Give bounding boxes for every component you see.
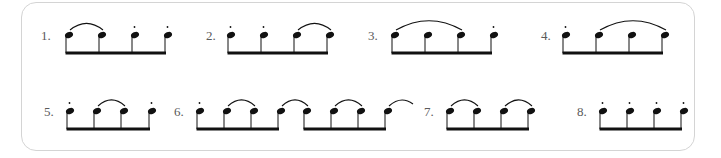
staccato-dot (199, 102, 201, 104)
beam (228, 52, 329, 55)
notehead (65, 107, 75, 116)
notehead (97, 31, 107, 40)
exercise-number: 8. (577, 104, 587, 119)
notehead (383, 107, 393, 116)
notehead (259, 31, 269, 40)
notehead (276, 107, 286, 116)
notehead (625, 107, 635, 116)
notehead (356, 107, 366, 116)
beam (447, 128, 530, 131)
notehead (679, 107, 689, 116)
exercise-number: 5. (44, 104, 54, 119)
slur (70, 23, 103, 30)
beam (67, 128, 151, 131)
staccato-dot (683, 102, 685, 104)
notehead (163, 31, 173, 40)
slur (335, 100, 362, 106)
notehead (526, 107, 536, 116)
slur (98, 100, 125, 106)
staccato-dot (167, 26, 169, 28)
notehead (499, 107, 509, 116)
beam (600, 128, 683, 131)
notehead (195, 107, 205, 116)
notehead (226, 31, 236, 40)
staccato-dot (134, 26, 136, 28)
notehead (325, 31, 335, 40)
staccato-dot (656, 102, 658, 104)
staccato-dot (629, 102, 631, 104)
notehead (627, 31, 637, 40)
notehead (489, 31, 499, 40)
slur (396, 21, 462, 30)
exercise-1: 1. (41, 23, 173, 54)
slur (451, 100, 478, 106)
notehead (472, 107, 482, 116)
slur (505, 100, 532, 106)
beam (66, 52, 167, 55)
notehead (249, 107, 259, 116)
notehead (660, 31, 670, 40)
notehead (64, 31, 74, 40)
exercise-6: 6. (174, 100, 413, 131)
slur (600, 21, 666, 30)
exercise-number: 6. (174, 104, 184, 119)
exercise-number: 3. (368, 28, 378, 43)
exercise-4: 4. (541, 21, 670, 55)
staccato-dot (565, 26, 567, 28)
staccato-dot (69, 102, 71, 104)
notehead (598, 107, 608, 116)
exercise-8: 8. (577, 102, 689, 130)
rhythm-exercises: 1.2.3.4.5.6.7.8. (0, 0, 721, 158)
notehead (222, 107, 232, 116)
notehead (445, 107, 455, 116)
slur (298, 23, 331, 30)
beam (304, 128, 387, 131)
exercise-number: 4. (541, 28, 551, 43)
exercise-number: 7. (424, 104, 434, 119)
exercise-number: 1. (41, 28, 51, 43)
slur (282, 100, 308, 106)
beam (563, 52, 664, 55)
beam (197, 128, 280, 131)
notehead (561, 31, 571, 40)
exercise-5: 5. (44, 100, 157, 131)
notehead (423, 31, 433, 40)
notehead (92, 107, 102, 116)
notehead (119, 107, 129, 116)
exercise-2: 2. (206, 23, 335, 54)
open-slur (389, 100, 413, 106)
notehead (147, 107, 157, 116)
exercise-7: 7. (424, 100, 536, 131)
notehead (594, 31, 604, 40)
slur (228, 100, 255, 106)
staccato-dot (263, 26, 265, 28)
notehead (130, 31, 140, 40)
notehead (652, 107, 662, 116)
exercise-number: 2. (206, 28, 216, 43)
staccato-dot (230, 26, 232, 28)
staccato-dot (493, 26, 495, 28)
notehead (329, 107, 339, 116)
notehead (390, 31, 400, 40)
notehead (302, 107, 312, 116)
beam (392, 52, 493, 55)
staccato-dot (602, 102, 604, 104)
notehead (456, 31, 466, 40)
exercise-3: 3. (368, 21, 499, 55)
notehead (292, 31, 302, 40)
staccato-dot (151, 102, 153, 104)
